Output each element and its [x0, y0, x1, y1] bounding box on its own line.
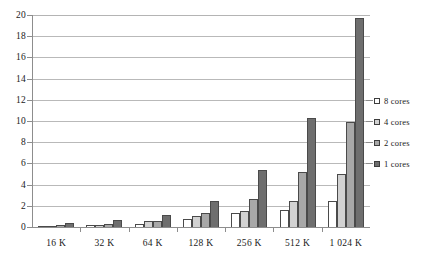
legend-label: 1 cores	[384, 159, 410, 169]
x-axis-tick-label: 64 K	[129, 238, 177, 248]
y-axis-tick-label: 16	[0, 52, 26, 62]
x-axis-tick-label: 16 K	[32, 238, 80, 248]
y-axis-tick-label: 0	[0, 222, 26, 232]
legend-swatch-icon	[374, 119, 380, 125]
legend-label: 8 cores	[384, 96, 410, 106]
legend-label: 2 cores	[384, 138, 410, 148]
y-axis-tick-label: 2	[0, 201, 26, 211]
bar	[201, 213, 210, 227]
x-axis-tick-label: 1 024 K	[322, 238, 370, 248]
bar-group	[32, 15, 80, 227]
bar-chart: 02468101214161820 16 K32 K64 K128 K256 K…	[0, 0, 436, 266]
x-axis-tick-label: 32 K	[80, 238, 128, 248]
bar	[258, 170, 267, 227]
bar	[192, 216, 201, 227]
bar	[249, 199, 258, 227]
x-axis-tick	[177, 227, 178, 232]
bar-group	[177, 15, 225, 227]
bar	[183, 219, 192, 227]
plot-area	[32, 15, 370, 227]
x-axis-line	[32, 227, 370, 228]
bar	[298, 172, 307, 227]
legend-tick-stub	[366, 100, 373, 101]
y-axis-tick-label: 20	[0, 10, 26, 20]
bar	[337, 174, 346, 227]
y-axis-line	[32, 15, 33, 228]
x-axis-tick	[273, 227, 274, 232]
y-axis-tick-label: 4	[0, 180, 26, 190]
legend-tick-stub	[366, 142, 373, 143]
legend-label: 4 cores	[384, 117, 410, 127]
bar-group	[322, 15, 370, 227]
legend-item[interactable]: 1 cores	[374, 159, 434, 168]
x-axis-tick	[225, 227, 226, 232]
y-axis-tick-label: 10	[0, 116, 26, 126]
legend-swatch-icon	[374, 98, 380, 104]
bar-group	[80, 15, 128, 227]
bar-group	[225, 15, 273, 227]
y-axis-tick-label: 12	[0, 95, 26, 105]
bar	[328, 201, 337, 228]
legend-item[interactable]: 8 cores	[374, 96, 434, 105]
bar	[355, 18, 364, 227]
legend-item[interactable]: 2 cores	[374, 138, 434, 147]
x-axis-tick-label: 256 K	[225, 238, 273, 248]
bar-group	[273, 15, 321, 227]
legend-tick-stub	[366, 163, 373, 164]
x-axis-tick-label: 128 K	[177, 238, 225, 248]
legend-swatch-icon	[374, 161, 380, 167]
x-axis-tick	[80, 227, 81, 232]
y-axis-tick-label: 18	[0, 31, 26, 41]
bar-group	[129, 15, 177, 227]
chart-legend: 8 cores4 cores2 cores1 cores	[374, 96, 434, 180]
bar	[231, 213, 240, 227]
legend-tick-stub	[366, 121, 373, 122]
x-axis-tick	[129, 227, 130, 232]
bar	[280, 210, 289, 227]
legend-swatch-icon	[374, 140, 380, 146]
bar	[240, 211, 249, 227]
bar	[307, 118, 316, 227]
bar	[346, 122, 355, 227]
legend-item[interactable]: 4 cores	[374, 117, 434, 126]
y-axis-tick-label: 8	[0, 137, 26, 147]
x-axis-tick	[322, 227, 323, 232]
bar	[162, 215, 171, 227]
bar	[113, 220, 122, 227]
x-axis-tick-label: 512 K	[273, 238, 321, 248]
y-axis-tick-label: 14	[0, 74, 26, 84]
y-axis-tick-label: 6	[0, 158, 26, 168]
bar	[210, 201, 219, 228]
bar	[289, 201, 298, 228]
